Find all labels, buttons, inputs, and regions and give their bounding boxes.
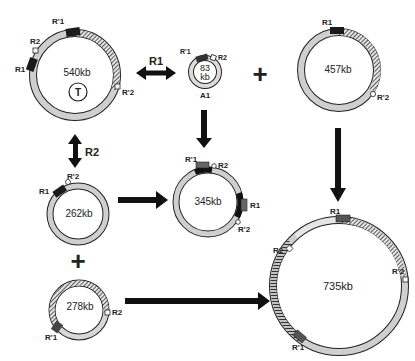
label-r2: R2 [30, 37, 41, 46]
label-r1: R1 [15, 65, 26, 74]
plus-sign: + [252, 59, 267, 89]
plasmid-540kb: R'1 R2 R1 R'2 540kb T [15, 17, 135, 117]
t-label: T [75, 87, 81, 98]
plasmid-262kb: R1 R'2 262kb [39, 172, 106, 242]
plasmid-735kb: R1 R2 R'2 R'1 735kb [273, 207, 408, 352]
arrow-label-r1: R1 [149, 55, 163, 67]
label-r1prime: R'1 [180, 48, 191, 55]
plus-sign: + [70, 246, 85, 276]
label-r2: R2 [112, 308, 123, 317]
plasmid-name-a1: A1 [200, 91, 211, 100]
arrow-label-r2: R2 [85, 146, 99, 158]
marker-r2-icon [33, 48, 38, 53]
marker-r1-icon [336, 215, 350, 222]
label-r1prime: R'1 [292, 343, 305, 352]
marker-r1-icon [241, 199, 247, 211]
label-r2prime: R'2 [122, 88, 135, 97]
marker-r2-icon [105, 310, 110, 315]
plasmid-size-label: 278kb [66, 301, 94, 312]
label-r2prime: R'2 [238, 225, 251, 234]
label-r2prime: R'2 [67, 172, 80, 181]
plasmid-457kb: R1 R'2 457kb [301, 18, 390, 108]
plasmid-size-label: 457kb [324, 64, 352, 75]
label-r2prime: R'2 [392, 267, 405, 276]
label-r1prime: R'1 [185, 155, 198, 164]
plasmid-size-label: 540kb [63, 67, 91, 78]
double-arrow-r2: R2 [68, 134, 99, 168]
marker-r2prime-icon [115, 84, 120, 89]
arrow-right-262-to-345 [118, 191, 168, 209]
label-r2: R2 [218, 161, 229, 170]
marker-r1prime-icon [196, 162, 209, 168]
plasmid-345kb: R'1 R2 R1 R'2 345kb [176, 155, 261, 234]
double-arrow-r1: R1 [136, 55, 176, 80]
arrow-down-a1 [196, 110, 212, 148]
label-r1: R1 [330, 207, 341, 216]
label-r2: R2 [218, 54, 227, 61]
label-r1prime: R'1 [45, 333, 58, 342]
plasmid-size-label: 262kb [65, 208, 93, 219]
plasmid-83kb: R'1 R2 83 kb A1 [180, 48, 227, 100]
plasmid-size-unit: kb [200, 72, 210, 82]
arrow-down-457 [330, 128, 346, 202]
marker-r2prime-icon [370, 91, 375, 96]
diagram-canvas: R'1 R2 R1 R'2 540kb T R1 R'1 R2 83 kb A1… [0, 0, 415, 361]
marker-r2prime-icon [236, 220, 241, 225]
plasmid-size-label: 735kb [323, 280, 353, 292]
label-r1: R1 [250, 201, 261, 210]
label-r1prime: R'1 [52, 17, 65, 26]
label-r1: R1 [39, 187, 50, 196]
arrow-right-278-to-735 [125, 292, 270, 310]
marker-r1-icon [330, 27, 344, 34]
marker-r2-icon [210, 54, 216, 60]
label-r2: R2 [273, 246, 284, 255]
marker-r2-icon [212, 164, 217, 169]
label-r1: R1 [322, 18, 333, 27]
plasmid-278kb: R2 R'1 278kb [45, 283, 123, 342]
label-r2prime: R'2 [377, 93, 390, 102]
plasmid-size-label: 345kb [194, 196, 222, 207]
marker-r2prime-icon [403, 277, 408, 282]
